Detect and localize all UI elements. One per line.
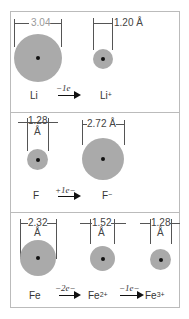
li-symbol: Li <box>30 91 38 101</box>
li-transition-label: −1e <box>56 84 71 93</box>
li-ion-symbol: Li+ <box>100 91 112 101</box>
dimension-tick <box>61 19 62 47</box>
reaction-arrow <box>120 295 138 296</box>
fe2-ion-circle <box>90 246 115 271</box>
f-diameter-label: 1.28 <box>28 116 47 126</box>
fe-atom-circle <box>20 240 56 276</box>
dimension-line <box>15 23 29 24</box>
dimension-tick <box>124 120 125 145</box>
panel-divider <box>10 112 180 113</box>
fe2-symbol: Fe2+ <box>88 291 108 301</box>
li-atom-circle <box>14 34 62 82</box>
li-ion-diameter-label: 1.20 Å <box>114 18 143 28</box>
f-symbol: F <box>33 191 39 201</box>
reaction-arrow <box>58 95 75 96</box>
dimension-line <box>50 23 61 24</box>
f-ion-symbol: F− <box>102 191 112 201</box>
fe-transition1-label: −2e− <box>55 284 76 293</box>
reaction-arrow <box>59 295 75 296</box>
panel-divider <box>10 212 180 213</box>
f-ion-diameter-label: 2.72 Å <box>87 119 116 129</box>
dimension-tick <box>112 18 113 50</box>
fe3-diameter-unit: Å <box>157 228 164 238</box>
fe2-diameter-unit: Å <box>98 228 105 238</box>
fe3-symbol: Fe3+ <box>145 291 165 301</box>
reaction-arrow <box>58 196 75 197</box>
fe-diameter-unit: Å <box>34 228 41 238</box>
li-ion-circle <box>93 49 113 69</box>
f-transition-label: +1e− <box>55 186 76 195</box>
fe3-ion-circle <box>150 249 171 270</box>
dimension-line <box>93 23 112 24</box>
f-atom-circle <box>27 149 48 170</box>
li-diameter-label: 3.04 <box>31 18 50 28</box>
f-diameter-unit: Å <box>34 127 41 137</box>
f-ion-circle <box>82 138 124 180</box>
fe-symbol: Fe <box>29 291 41 301</box>
dimension-tick <box>56 219 57 259</box>
